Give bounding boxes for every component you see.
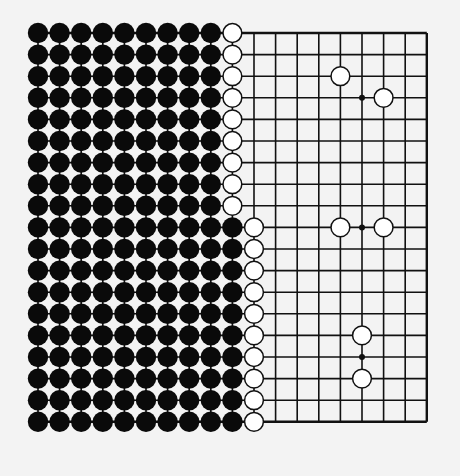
black-stone [136, 88, 156, 108]
black-stone [93, 23, 113, 43]
black-stone [201, 412, 221, 432]
black-stone [114, 347, 134, 367]
black-stone [114, 174, 134, 194]
black-stone [71, 325, 91, 345]
black-stone [28, 325, 48, 345]
black-stone [114, 152, 134, 172]
black-stone [201, 174, 221, 194]
black-stone [28, 196, 48, 216]
black-stone [157, 131, 177, 151]
black-stone [201, 325, 221, 345]
black-stone [28, 66, 48, 86]
black-stone [157, 347, 177, 367]
black-stone [71, 412, 91, 432]
star-point [359, 95, 365, 101]
black-stone [49, 23, 69, 43]
black-stone [71, 44, 91, 64]
white-stone [245, 283, 264, 302]
black-stone [222, 390, 242, 410]
white-stone [223, 196, 242, 215]
black-stone [179, 196, 199, 216]
black-stone [136, 66, 156, 86]
black-stone [222, 282, 242, 302]
black-stone [49, 390, 69, 410]
black-stone [157, 325, 177, 345]
black-stone [93, 88, 113, 108]
white-stone [223, 132, 242, 151]
black-stone [93, 239, 113, 259]
black-stone [93, 109, 113, 129]
black-stone [93, 412, 113, 432]
black-stone [49, 44, 69, 64]
black-stone [93, 390, 113, 410]
white-stone [245, 218, 264, 237]
black-stone [28, 109, 48, 129]
white-stone [245, 240, 264, 259]
black-stone [114, 390, 134, 410]
black-stone [222, 347, 242, 367]
black-stone [49, 196, 69, 216]
black-stone [49, 174, 69, 194]
white-stone [223, 88, 242, 107]
white-stone [245, 261, 264, 280]
black-stone [49, 66, 69, 86]
black-stone [93, 368, 113, 388]
black-stone [179, 325, 199, 345]
black-stone [157, 66, 177, 86]
black-stone [49, 304, 69, 324]
black-stone [222, 217, 242, 237]
black-stone [114, 412, 134, 432]
black-stone [222, 239, 242, 259]
black-stone [114, 66, 134, 86]
black-stone [157, 174, 177, 194]
black-stone [157, 217, 177, 237]
black-stone [136, 196, 156, 216]
black-stone [201, 390, 221, 410]
black-stone [93, 131, 113, 151]
black-stone [71, 196, 91, 216]
black-stone [179, 239, 199, 259]
black-stone [28, 131, 48, 151]
white-stone [245, 369, 264, 388]
black-stone [222, 325, 242, 345]
black-stone [222, 304, 242, 324]
black-stone [114, 239, 134, 259]
black-stone [157, 196, 177, 216]
black-stone [28, 152, 48, 172]
black-stone [179, 152, 199, 172]
black-stone [114, 196, 134, 216]
star-point [359, 354, 365, 360]
black-stone [157, 23, 177, 43]
black-stone [93, 217, 113, 237]
black-stone [71, 109, 91, 129]
black-stone [179, 282, 199, 302]
black-stone [28, 217, 48, 237]
black-stone [201, 217, 221, 237]
black-stone [28, 260, 48, 280]
black-stone [136, 347, 156, 367]
white-stone [223, 67, 242, 86]
black-stone [201, 44, 221, 64]
black-stone [136, 304, 156, 324]
black-stone [179, 109, 199, 129]
white-stone [223, 110, 242, 129]
black-stone [136, 325, 156, 345]
black-stone [201, 109, 221, 129]
black-stone [93, 66, 113, 86]
black-stone [157, 282, 177, 302]
black-stone [179, 347, 199, 367]
black-stone [28, 23, 48, 43]
black-stone [93, 260, 113, 280]
black-stone [71, 260, 91, 280]
black-stone [49, 239, 69, 259]
black-stone [28, 282, 48, 302]
black-stone [49, 412, 69, 432]
black-stone [201, 131, 221, 151]
black-stone [28, 239, 48, 259]
black-stone [179, 131, 199, 151]
black-stone [157, 88, 177, 108]
black-stone [222, 412, 242, 432]
black-stone [136, 44, 156, 64]
stones [28, 23, 393, 432]
black-stone [157, 152, 177, 172]
